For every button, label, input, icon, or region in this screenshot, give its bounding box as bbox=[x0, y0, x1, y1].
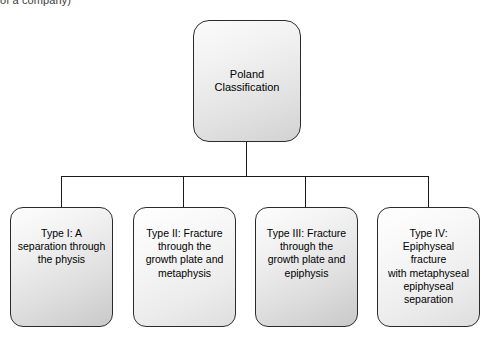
node-type-ii-label: Type II: Fracture through the growth pla… bbox=[140, 208, 230, 280]
node-poland-classification-label: Poland Classification bbox=[209, 68, 286, 95]
connector-horizontal-bus bbox=[61, 176, 429, 177]
node-type-iii[interactable]: Type III: Fracture through the growth pl… bbox=[255, 207, 358, 327]
connector-drop-4 bbox=[428, 176, 429, 207]
node-type-i-label: Type I: A separation through the physis bbox=[12, 208, 112, 267]
connector-root-stem bbox=[246, 142, 247, 176]
flowchart-canvas: of a company) Poland Classification Type… bbox=[0, 0, 495, 341]
node-type-ii[interactable]: Type II: Fracture through the growth pla… bbox=[133, 207, 236, 327]
connector-drop-3 bbox=[305, 176, 306, 207]
connector-drop-2 bbox=[183, 176, 184, 207]
node-type-iv-label: Type IV: Epiphyseal fracture with metaph… bbox=[382, 208, 475, 306]
clipped-caption-text: of a company) bbox=[0, 0, 200, 9]
connector-drop-1 bbox=[61, 176, 62, 207]
node-type-i[interactable]: Type I: A separation through the physis bbox=[10, 207, 113, 327]
node-type-iii-label: Type III: Fracture through the growth pl… bbox=[261, 208, 352, 280]
node-type-iv[interactable]: Type IV: Epiphyseal fracture with metaph… bbox=[377, 207, 480, 327]
node-poland-classification[interactable]: Poland Classification bbox=[193, 20, 301, 142]
